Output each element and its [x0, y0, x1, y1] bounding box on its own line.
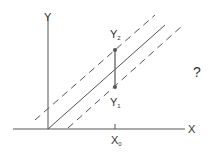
y-axis-label: Y	[44, 12, 51, 23]
lower-bound-dashed-line	[68, 26, 182, 128]
x0-tick-label: X0	[111, 135, 122, 147]
regression-line	[48, 25, 165, 129]
question-mark-annotation: ?	[193, 65, 201, 79]
x-axis-label: X	[188, 124, 195, 135]
y2-label: Y2	[110, 29, 121, 41]
upper-bound-dashed-line	[35, 15, 155, 120]
y1-label: Y1	[110, 97, 121, 109]
point-y1	[113, 85, 117, 89]
x0-label-sub: 0	[118, 141, 121, 147]
y1-label-sub: 1	[117, 103, 120, 109]
diagram-canvas	[0, 0, 211, 156]
point-y2	[113, 48, 117, 52]
y2-label-sub: 2	[117, 35, 120, 41]
